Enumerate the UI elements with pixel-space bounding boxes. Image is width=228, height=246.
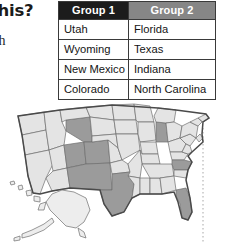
cell-group1-state: Colorado <box>59 80 129 100</box>
alaska-inset <box>14 190 90 241</box>
state-kentucky <box>140 142 158 154</box>
hawaii-island-1 <box>10 181 15 185</box>
state-georgia-upper <box>142 164 174 178</box>
state-south-dakota <box>90 117 116 136</box>
state-georgia <box>160 176 176 194</box>
state-iowa <box>114 120 138 134</box>
cell-group2-state: Indiana <box>129 60 216 80</box>
state-oklahoma <box>110 160 130 174</box>
aleutian-island-west <box>14 236 20 241</box>
table-row: Wyoming Texas <box>59 40 216 60</box>
cell-group2-state: North Carolina <box>129 80 216 100</box>
table-row: New Mexico Indiana <box>59 60 216 80</box>
state-wyoming-highlighted <box>66 117 92 142</box>
cell-group2-state: Florida <box>129 20 216 40</box>
state-new-mexico-highlighted <box>67 163 112 190</box>
cell-group1-state: Wyoming <box>59 40 129 60</box>
table-row: Utah Florida <box>59 20 216 40</box>
table-header-row: Group 1 Group 2 <box>59 2 216 20</box>
figure-container: this? ach Group 1 Group 2 Utah Florida W… <box>0 0 228 246</box>
instruction-text-fragment: ach <box>0 33 44 49</box>
hawaii-island-2 <box>18 185 23 190</box>
table-row: Colorado North Carolina <box>59 80 216 100</box>
question-text-fragment: this? <box>0 1 48 20</box>
cell-group2-state: Texas <box>129 40 216 60</box>
alaska-peninsula <box>38 202 46 210</box>
column-header-group-2: Group 2 <box>129 2 216 20</box>
state-colorado-highlighted <box>84 140 110 164</box>
alaska-southeast <box>78 228 86 238</box>
aleutian-islands <box>22 218 54 238</box>
state-california <box>25 150 53 194</box>
group-comparison-table: Group 1 Group 2 Utah Florida Wyoming Tex… <box>58 1 216 100</box>
united-states-map <box>0 98 228 246</box>
cell-group1-state: Utah <box>59 20 129 40</box>
hawaii-island-4 <box>34 196 40 202</box>
state-illinois <box>138 122 156 142</box>
column-header-group-1: Group 1 <box>59 2 129 20</box>
state-mississippi <box>140 178 150 194</box>
hawaii-island-3 <box>26 190 32 196</box>
state-utah-highlighted <box>64 142 86 168</box>
cell-group1-state: New Mexico <box>59 60 129 80</box>
